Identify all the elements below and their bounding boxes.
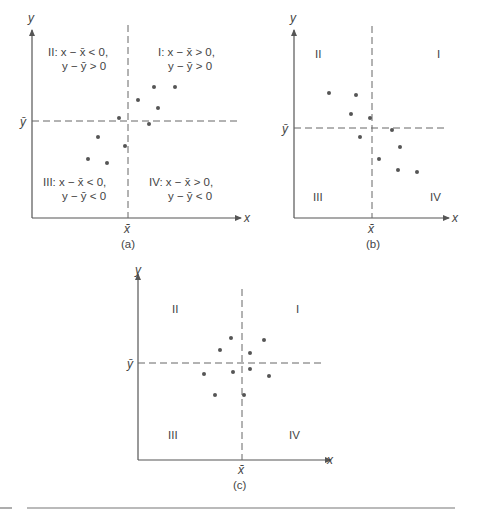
quadrant-III-line1: III: x − x̄ < 0,	[43, 176, 106, 188]
quadrant-III: III	[313, 191, 323, 203]
ybar-label: ȳ	[281, 122, 289, 136]
x-axis-label: x	[243, 211, 251, 225]
data-point	[96, 135, 100, 139]
data-point	[248, 367, 252, 371]
data-points	[327, 91, 419, 174]
quadrant-II-line2: y − ȳ > 0	[62, 60, 106, 72]
data-point	[231, 370, 235, 374]
data-point	[377, 157, 381, 161]
scatter-panel-b: y x ȳ x̄ II I III IV (b)	[281, 11, 459, 250]
data-point	[213, 393, 217, 397]
data-point	[229, 336, 233, 340]
data-point	[248, 351, 252, 355]
ybar-label: ȳ	[126, 357, 134, 371]
data-point	[354, 93, 358, 97]
quadrant-I: I	[437, 48, 440, 60]
scatter-panel-a: y x ȳ x̄ II: x − x̄ < 0, y − ȳ > 0 I: x …	[19, 11, 251, 250]
quadrant-IV: IV	[430, 191, 441, 203]
x-axis-label: x	[451, 211, 459, 225]
data-point	[136, 98, 140, 102]
quadrant-III-line2: y − ȳ < 0	[62, 190, 106, 202]
data-point	[105, 161, 109, 165]
data-point	[358, 135, 362, 139]
data-point	[267, 374, 271, 378]
data-point	[152, 85, 156, 89]
quadrant-II: II	[315, 48, 321, 60]
quadrant-II: II	[172, 303, 178, 315]
quadrant-IV-line2: y − ȳ < 0	[168, 190, 212, 202]
data-point	[218, 348, 222, 352]
data-point	[368, 116, 372, 120]
data-point	[202, 372, 206, 376]
data-point	[390, 128, 394, 132]
figure-canvas: y x ȳ x̄ II: x − x̄ < 0, y − ȳ > 0 I: x …	[0, 0, 480, 511]
data-point	[117, 116, 121, 120]
data-point	[173, 85, 177, 89]
xbar-label: x̄	[237, 463, 245, 477]
data-points	[202, 336, 271, 397]
data-point	[242, 393, 246, 397]
panel-caption: (a)	[121, 238, 135, 250]
data-point	[156, 106, 160, 110]
ybar-label: ȳ	[19, 115, 27, 129]
y-axis-label: y	[134, 263, 142, 277]
quadrant-I-line1: I: x − x̄ > 0,	[158, 46, 215, 58]
quadrant-I-line2: y − ȳ > 0	[168, 60, 212, 72]
quadrant-III: III	[168, 429, 178, 441]
xbar-label: x̄	[367, 222, 375, 236]
xbar-label: x̄	[123, 222, 131, 236]
y-axis-label: y	[289, 11, 297, 25]
quadrant-IV: IV	[289, 429, 300, 441]
data-point	[262, 338, 266, 342]
data-point	[147, 122, 151, 126]
data-point	[396, 168, 400, 172]
quadrant-I: I	[296, 303, 299, 315]
data-points	[86, 85, 177, 165]
data-point	[327, 91, 331, 95]
data-point	[415, 170, 419, 174]
panel-caption: (c)	[233, 479, 247, 491]
quadrant-IV-line1: IV: x − x̄ > 0,	[149, 176, 213, 188]
data-point	[349, 112, 353, 116]
data-point	[398, 145, 402, 149]
x-axis-label: x	[326, 453, 334, 467]
data-point	[86, 157, 90, 161]
scatter-panel-c: y x ȳ x̄ II I III IV (c)	[126, 263, 334, 491]
quadrant-II-line1: II: x − x̄ < 0,	[48, 46, 108, 58]
panel-caption: (b)	[366, 238, 380, 250]
y-axis-label: y	[27, 11, 35, 25]
data-point	[123, 144, 127, 148]
